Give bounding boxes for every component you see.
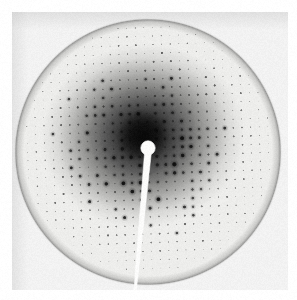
diffraction-image-stage: Single-crystal X-ray diffraction still p…: [0, 0, 297, 300]
diffraction-pattern-canvas: [0, 0, 297, 300]
